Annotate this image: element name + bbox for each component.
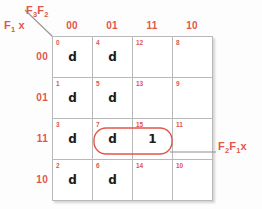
row-var-sub1: 1 [11, 25, 15, 34]
row-heading-0: 00 [16, 36, 48, 77]
cell-index: 2 [56, 161, 60, 170]
kmap-cell-8[interactable]: 8 [173, 37, 213, 78]
cell-value: d [53, 173, 92, 187]
kmap-cell-9[interactable]: 9 [173, 78, 213, 119]
cell-index: 13 [136, 79, 143, 88]
kmap-cell-15[interactable]: 15 1 [133, 119, 173, 160]
column-variable-label: F3F2 [26, 4, 49, 19]
cell-value: d [93, 50, 132, 64]
cell-value: d [93, 132, 132, 146]
column-heading-2: 11 [132, 20, 172, 31]
kmap-cell-2[interactable]: 2 d [53, 160, 93, 201]
kmap-cell-11[interactable]: 11 [173, 119, 213, 160]
cell-value: d [53, 91, 92, 105]
kmap-cell-13[interactable]: 13 [133, 78, 173, 119]
column-heading-0: 00 [52, 20, 92, 31]
row-heading-3: 10 [16, 159, 48, 200]
column-heading-1: 01 [92, 20, 132, 31]
row-var-tail: x [19, 19, 25, 31]
kmap-cell-4[interactable]: 4 d [93, 37, 133, 78]
karnaugh-map-figure: F3F2 F1 x 00 01 11 10 00 01 11 10 0 d 4 … [0, 0, 262, 209]
cell-index: 6 [96, 161, 100, 170]
row-heading-1: 01 [16, 77, 48, 118]
cell-value: d [93, 173, 132, 187]
cell-index: 8 [176, 38, 180, 47]
kmap-cell-7[interactable]: 7 d [93, 119, 133, 160]
col-var-sub2: 2 [44, 10, 48, 19]
row-heading-2: 11 [16, 118, 48, 159]
group-label-f2f1x: F2F1x [218, 140, 247, 155]
cell-index: 12 [136, 38, 143, 47]
cell-value: d [53, 132, 92, 146]
kmap-cell-12[interactable]: 12 [133, 37, 173, 78]
cell-value: d [93, 91, 132, 105]
kmap-cell-0[interactable]: 0 d [53, 37, 93, 78]
cell-index: 15 [136, 120, 143, 129]
column-heading-3: 10 [172, 20, 212, 31]
cell-index: 10 [176, 161, 183, 170]
row-var-base: F [4, 19, 11, 31]
cell-index: 5 [96, 79, 100, 88]
kmap-cell-3[interactable]: 3 d [53, 119, 93, 160]
col-var-base: F [26, 4, 33, 16]
cell-value: 1 [133, 132, 172, 146]
cell-value: d [53, 50, 92, 64]
cell-index: 0 [56, 38, 60, 47]
cell-index: 14 [136, 161, 143, 170]
kmap-cell-1[interactable]: 1 d [53, 78, 93, 119]
cell-index: 1 [56, 79, 60, 88]
kmap-grid: 0 d 4 d 12 8 1 d 5 d 13 9 [52, 36, 213, 201]
group-label-tail: x [241, 140, 247, 152]
cell-index: 11 [176, 120, 183, 129]
group-label-base1: F [218, 140, 225, 152]
cell-index: 3 [56, 120, 60, 129]
kmap-cell-6[interactable]: 6 d [93, 160, 133, 201]
axis-corner-header: F3F2 F1 x [0, 0, 56, 40]
kmap-cell-10[interactable]: 10 [173, 160, 213, 201]
kmap-cell-5[interactable]: 5 d [93, 78, 133, 119]
kmap-cell-14[interactable]: 14 [133, 160, 173, 201]
cell-index: 4 [96, 38, 100, 47]
row-variable-label: F1 x [4, 19, 25, 34]
cell-index: 9 [176, 79, 180, 88]
cell-index: 7 [96, 120, 100, 129]
